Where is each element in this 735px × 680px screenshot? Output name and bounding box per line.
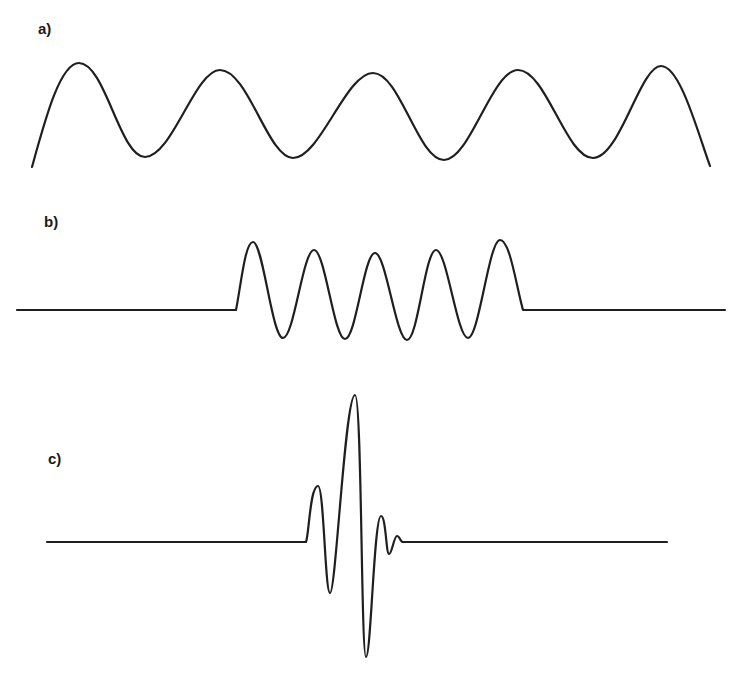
- waveform-a-continuous-sine: [32, 63, 710, 167]
- waveform-diagram: [0, 0, 735, 680]
- waveform-c-transient-pulse: [47, 395, 667, 657]
- waveform-b-wave-packet: [17, 240, 725, 340]
